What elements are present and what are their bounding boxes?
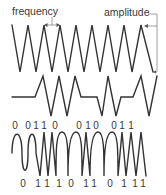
bit-digit: 1: [44, 178, 50, 189]
frequency-label: frequency: [12, 5, 59, 17]
bit-digit: 1: [132, 178, 138, 189]
bit-digit: 1: [56, 178, 62, 189]
diagram-canvas: frequency amplitude 00110010011 01110110…: [0, 0, 166, 195]
bit-digit: 0: [68, 178, 74, 189]
amplitude-label: amplitude: [104, 6, 150, 18]
bit-digit: 1: [128, 120, 134, 131]
bit-digit: 0: [25, 120, 31, 131]
bit-digit: 1: [35, 178, 41, 189]
bit-digit: 0: [52, 120, 58, 131]
top-bit-sequence: 00110010011: [12, 120, 134, 131]
amplitude-modulated-wave: [12, 76, 157, 116]
bottom-bit-sequence: 01110110111: [20, 178, 146, 189]
bit-digit: 1: [91, 178, 97, 189]
bit-digit: 1: [83, 178, 89, 189]
bit-digit: 0: [12, 120, 18, 131]
bit-digit: 1: [121, 178, 127, 189]
bit-digit: 0: [20, 178, 26, 189]
bit-digit: 0: [111, 120, 117, 131]
frequency-indicator: [44, 17, 60, 27]
modulation-diagram: frequency amplitude 00110010011 01110110…: [0, 0, 166, 195]
bit-digit: 1: [41, 120, 47, 131]
bit-digit: 0: [76, 120, 82, 131]
carrier-wave: [12, 25, 153, 72]
bit-digit: 0: [107, 178, 113, 189]
arrowhead-left-icon: [144, 24, 148, 28]
bit-digit: 0: [93, 120, 99, 131]
bit-digit: 1: [119, 120, 125, 131]
bit-digit: 1: [33, 120, 39, 131]
frequency-modulated-wave: [12, 132, 146, 176]
bit-digit: 1: [140, 178, 146, 189]
bit-digit: 1: [85, 120, 91, 131]
